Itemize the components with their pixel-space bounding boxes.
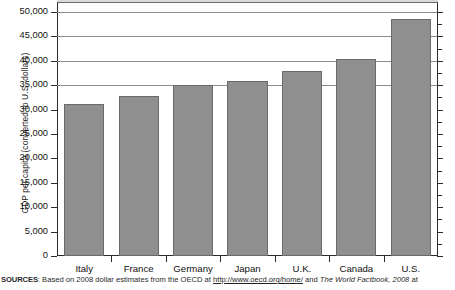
- y-axis-minor-tick-right: [438, 146, 442, 147]
- y-axis-minor-tick-right: [438, 73, 442, 74]
- bar: [64, 104, 104, 256]
- x-axis-tick: [166, 256, 167, 262]
- y-axis-tick: [51, 207, 57, 208]
- y-axis-minor-tick-right: [438, 219, 442, 220]
- x-axis-label-u-k: U.K.: [275, 263, 329, 274]
- y-axis-tick: [51, 36, 57, 37]
- y-axis-tick-label: 50,000: [20, 7, 48, 16]
- x-axis-label-italy: Italy: [57, 263, 111, 274]
- y-axis-tick: [51, 12, 57, 13]
- y-axis-tick: [51, 85, 57, 86]
- bar: [391, 19, 431, 256]
- y-axis-tick-right: [437, 61, 443, 62]
- source-note: SOURCES: Based on 2008 dollar estimates …: [1, 276, 455, 285]
- y-axis-tick-right: [437, 232, 443, 233]
- y-axis-minor-tick-right: [438, 97, 442, 98]
- gridline: [57, 61, 438, 62]
- x-axis-label-japan: Japan: [220, 263, 274, 274]
- x-axis-label-u-s: U.S.: [384, 263, 438, 274]
- y-axis-tick-right: [437, 110, 443, 111]
- y-axis-tick-right: [437, 85, 443, 86]
- y-axis-minor-tick-right: [438, 24, 442, 25]
- y-axis-tick-right: [437, 36, 443, 37]
- y-axis-tick: [51, 134, 57, 135]
- y-axis-tick-right: [437, 183, 443, 184]
- y-axis-tick: [51, 158, 57, 159]
- y-axis-minor-tick-right: [438, 244, 442, 245]
- y-axis-tick-right: [437, 158, 443, 159]
- bar: [173, 85, 213, 256]
- y-axis-tick-label: 10,000: [20, 202, 48, 211]
- y-axis-tick-label: 45,000: [20, 31, 48, 40]
- x-axis-tick: [384, 256, 385, 262]
- y-axis-tick-right: [437, 12, 443, 13]
- source-link[interactable]: http://www.oecd.org/home/: [213, 275, 303, 284]
- y-axis-minor-tick-right: [438, 195, 442, 196]
- source-text-end: at: [409, 275, 417, 284]
- y-axis-tick-label: 20,000: [20, 153, 48, 162]
- x-axis-label-canada: Canada: [329, 263, 383, 274]
- y-axis-tick-right: [437, 256, 443, 257]
- y-axis-tick-label: 5,000: [25, 227, 48, 236]
- x-axis-label-france: France: [111, 263, 165, 274]
- y-axis-tick-label: 35,000: [20, 80, 48, 89]
- y-axis-minor-tick-right: [438, 122, 442, 123]
- y-axis-minor-tick-right: [438, 49, 442, 50]
- y-axis-minor-tick-right: [438, 171, 442, 172]
- bar: [282, 71, 322, 256]
- y-axis-tick: [51, 256, 57, 257]
- gridline: [57, 36, 438, 37]
- bar: [227, 81, 267, 256]
- y-axis-tick: [51, 110, 57, 111]
- source-label: SOURCES: [1, 275, 38, 284]
- x-axis-tick: [275, 256, 276, 262]
- y-axis-tick: [51, 232, 57, 233]
- y-axis-tick: [51, 183, 57, 184]
- bar: [336, 59, 376, 256]
- y-axis-tick-right: [437, 207, 443, 208]
- y-axis-tick-label: 40,000: [20, 56, 48, 65]
- y-axis-tick-label: 30,000: [20, 105, 48, 114]
- source-text-after: and: [303, 275, 320, 284]
- x-axis-label-germany: Germany: [166, 263, 220, 274]
- source-italic-title: The World Factbook, 2008: [320, 275, 409, 284]
- x-axis-tick: [329, 256, 330, 262]
- x-axis-tick: [220, 256, 221, 262]
- gridline: [57, 12, 438, 13]
- chart-figure: GDP per capita (converted to U.S. dollar…: [0, 0, 455, 290]
- y-axis-tick-label: 0: [43, 251, 48, 260]
- y-axis-tick-label: 15,000: [20, 178, 48, 187]
- bar: [119, 96, 159, 256]
- x-axis-tick: [111, 256, 112, 262]
- y-axis-tick-right: [437, 134, 443, 135]
- y-axis-tick: [51, 61, 57, 62]
- source-text-before: Based on 2008 dollar estimates from the …: [42, 275, 213, 284]
- y-axis-tick-label: 25,000: [20, 129, 48, 138]
